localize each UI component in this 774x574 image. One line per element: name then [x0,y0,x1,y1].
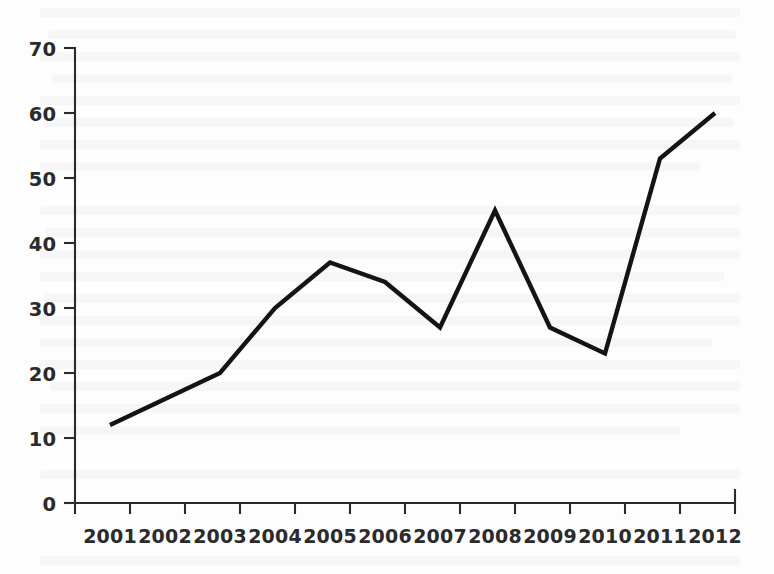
y-tick-label-60: 60 [29,103,56,126]
x-tick-label-2006: 2006 [358,525,412,547]
data-line-series-1 [110,113,715,425]
y-tick-label-70: 70 [29,38,56,61]
x-axis-tick-labels: 2001 2002 2003 2004 2005 2006 2007 2008 … [83,525,742,547]
y-tick-label-0: 0 [42,493,56,516]
chart-plot-area: 70 60 50 40 30 20 10 0 2001 [0,0,774,574]
y-axis-tick-labels: 70 60 50 40 30 20 10 0 [29,38,56,516]
x-tick-label-2004: 2004 [248,525,302,547]
x-tick-label-2008: 2008 [468,525,522,547]
x-axis-ticks [75,503,735,514]
x-axis-line [75,490,735,503]
x-tick-label-2010: 2010 [578,525,632,547]
x-tick-label-2007: 2007 [413,525,467,547]
x-tick-label-2001: 2001 [83,525,137,547]
y-tick-label-30: 30 [29,298,56,321]
x-tick-label-2012: 2012 [688,525,742,547]
x-tick-label-2003: 2003 [193,525,247,547]
y-tick-label-40: 40 [29,233,56,256]
line-chart-figure: 70 60 50 40 30 20 10 0 2001 [0,0,774,574]
x-tick-label-2002: 2002 [138,525,192,547]
x-tick-label-2005: 2005 [303,525,357,547]
y-tick-label-20: 20 [29,363,56,386]
y-tick-label-50: 50 [29,168,56,191]
y-axis-ticks [64,48,75,503]
x-tick-label-2011: 2011 [633,525,687,547]
y-tick-label-10: 10 [29,428,56,451]
x-tick-label-2009: 2009 [523,525,577,547]
